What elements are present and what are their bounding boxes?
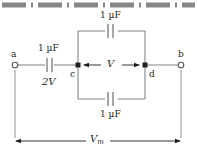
- capacitor-series-symbol: [47, 58, 52, 72]
- capacitor-top-value-label: 1 µF: [100, 11, 121, 20]
- node-c-label: c: [70, 70, 75, 79]
- node-dot-d: [143, 63, 148, 68]
- capacitor-series-voltage-label: 2V: [42, 77, 56, 87]
- total-voltage-subscript: m: [97, 138, 104, 146]
- terminal-b-label: b: [178, 50, 184, 59]
- circuit-diagram-figure: a b c d 1 µF 2V 1 µF 1 µF V Vm: [0, 0, 197, 163]
- node-dot-c: [76, 63, 81, 68]
- dimension-extension-lines: [15, 70, 181, 138]
- total-voltage-label: Vm: [90, 134, 104, 144]
- terminal-b-marker: [178, 62, 184, 68]
- capacitor-top-symbol: [108, 24, 113, 38]
- bridge-voltage-label: V: [107, 59, 114, 69]
- terminal-a-label: a: [11, 50, 16, 59]
- capacitor-bottom-value-label: 1 µF: [100, 110, 121, 119]
- node-d-label: d: [149, 70, 155, 79]
- terminal-a-marker: [12, 62, 18, 68]
- capacitor-bottom-symbol: [108, 92, 113, 106]
- capacitor-series-value-label: 1 µF: [38, 44, 59, 53]
